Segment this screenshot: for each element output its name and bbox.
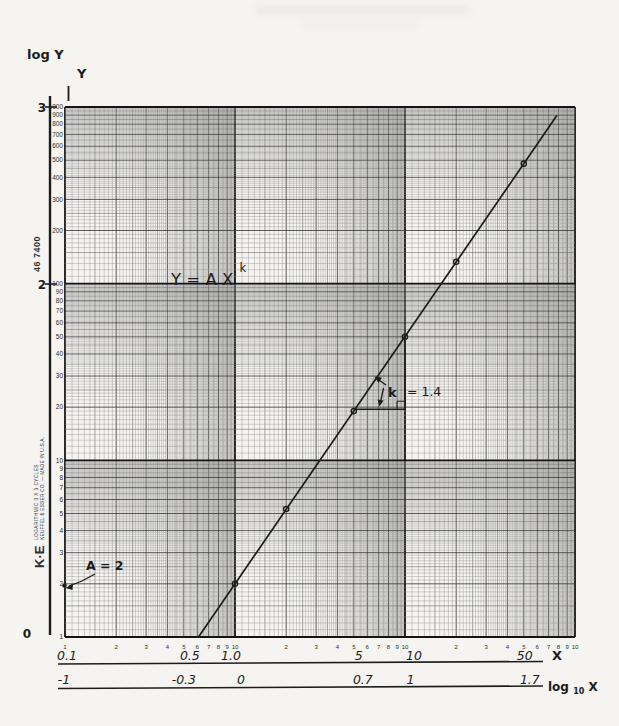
brand-logo: K·E xyxy=(32,545,47,568)
hand-log-x-scale-label: 0 xyxy=(237,672,245,687)
printed-y-label: 20 xyxy=(56,403,64,410)
printed-y-label: 400 xyxy=(52,174,63,181)
log-y-axis-title: log Y xyxy=(27,47,64,62)
printed-y-label: 70 xyxy=(56,307,64,314)
printed-x-label: 2 xyxy=(115,644,119,650)
printed-x-label: 3 xyxy=(144,644,148,650)
printed-y-label: 900 xyxy=(52,111,63,118)
printed-x-label: 7 xyxy=(547,644,551,650)
printed-x-label: 2 xyxy=(455,644,459,650)
printed-y-label: 3 xyxy=(59,549,63,556)
printed-y-label: 40 xyxy=(56,350,64,357)
hand-log-x-scale-label: -1 xyxy=(58,672,70,687)
hand-x-scale-label: 0.5 xyxy=(180,648,200,663)
x-scale-underline xyxy=(58,662,543,665)
printed-x-label: 4 xyxy=(506,644,510,650)
equation-exponent: k xyxy=(239,261,246,275)
log-y-tick-0: 0 xyxy=(23,627,31,641)
printed-y-label: 6 xyxy=(59,496,63,503)
x-axis-title: X xyxy=(552,648,562,663)
printed-x-label: 2 xyxy=(285,644,289,650)
log-x-title-sub: 10 xyxy=(573,687,585,696)
manufacturer: KEUFFEL & ESSER CO. — MADE IN U.S.A. xyxy=(40,437,45,540)
log-x-title-var: X xyxy=(588,680,598,694)
hand-x-scale-label: 1.0 xyxy=(221,648,241,663)
scanned-loglog-graph: 1000900800700600500400300200100908070605… xyxy=(0,0,619,726)
intercept-label: A = 2 xyxy=(86,558,124,573)
printed-y-label: 1 xyxy=(59,633,63,640)
hand-x-scale-label: 5 xyxy=(355,648,363,663)
printed-x-label: 9 xyxy=(566,644,570,650)
hand-x-scale-label: 10 xyxy=(406,648,422,663)
printed-y-label: 500 xyxy=(52,156,63,163)
printed-y-label: 700 xyxy=(52,131,63,138)
hand-x-scale: 0.10.51.051050 xyxy=(57,648,533,663)
catalog-number: 46 7400 xyxy=(32,236,42,272)
printed-x-label: 4 xyxy=(166,644,170,650)
hand-x-scale-label: 0.1 xyxy=(57,648,77,663)
intercept-annotation: A = 2 xyxy=(62,558,123,590)
log-x-scale-underline xyxy=(58,686,543,689)
printed-x-label: 8 xyxy=(387,644,391,650)
hand-log-x-scale-label: 1.7 xyxy=(520,672,540,687)
printed-x-label: 7 xyxy=(377,644,381,650)
log-y-tick-3: 3 xyxy=(38,101,46,115)
printed-y-label: 7 xyxy=(59,484,63,491)
loglog-chart: 1000900800700600500400300200100908070605… xyxy=(0,0,619,726)
printed-y-label: 800 xyxy=(52,120,63,127)
log-x-axis-title: log 10 X xyxy=(548,680,598,697)
intercept-point xyxy=(62,583,67,588)
printed-x-label: 9 xyxy=(396,644,400,650)
hand-y-axis-marker: Y xyxy=(69,66,88,101)
printed-x-label: 7 xyxy=(207,644,211,650)
printed-y-label: 5 xyxy=(59,510,63,517)
printed-y-label: 8 xyxy=(59,474,63,481)
y-axis-title: Y xyxy=(76,66,87,81)
printed-y-label: 90 xyxy=(56,288,64,295)
printed-y-label: 10 xyxy=(56,457,64,464)
printed-y-label: 60 xyxy=(56,319,64,326)
hand-log-x-scale-label: -0.3 xyxy=(172,672,196,687)
printed-y-label: 300 xyxy=(52,196,63,203)
printed-x-label: 4 xyxy=(336,644,340,650)
slope-k-symbol: k xyxy=(388,385,397,400)
equation-base: Y = A X xyxy=(170,270,233,289)
printed-x-axis-labels: 1234567891023456789102345678910 xyxy=(63,644,579,650)
log-y-tick-2: 2 xyxy=(38,278,46,292)
intercept-arrowhead xyxy=(66,584,74,591)
printed-x-label: 6 xyxy=(366,644,370,650)
hand-x-scale-label: 50 xyxy=(517,648,533,663)
log-x-title-base: log xyxy=(548,680,569,694)
printed-y-label: 50 xyxy=(56,333,64,340)
printed-y-label: 80 xyxy=(56,297,64,304)
printed-y-label: 4 xyxy=(59,527,63,534)
slope-value: = 1.4 xyxy=(407,384,441,399)
hand-log-x-scale-label: 1 xyxy=(407,672,415,687)
printed-x-label: 10 xyxy=(572,644,579,650)
printed-y-label: 200 xyxy=(52,227,63,234)
product-name: LOGARITHMIC 3 X 3 CYCLES xyxy=(34,464,39,540)
grid-vertical-lines xyxy=(65,107,575,637)
hand-log-x-scale-label: 0.7 xyxy=(353,672,373,687)
printed-y-label: 9 xyxy=(59,465,63,472)
printed-x-label: 6 xyxy=(536,644,540,650)
printed-x-label: 3 xyxy=(314,644,318,650)
printed-y-label: 600 xyxy=(52,142,63,149)
hand-log-x-scale: -1-0.300.711.7 xyxy=(58,672,540,687)
printed-y-label: 30 xyxy=(56,372,64,379)
printed-x-label: 3 xyxy=(484,644,488,650)
grid-horizontal-lines xyxy=(65,107,575,637)
